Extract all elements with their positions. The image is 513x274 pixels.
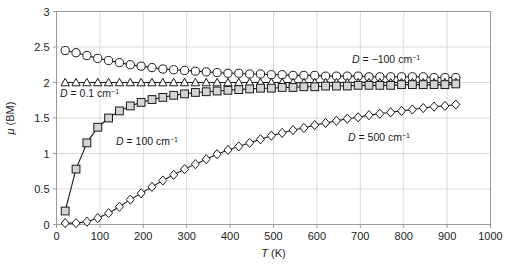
y-tick-label: 1.5 [34, 112, 49, 124]
data-marker-diamond [278, 128, 286, 137]
data-marker-diamond [61, 218, 69, 227]
data-marker-diamond [148, 182, 156, 191]
data-marker-diamond [322, 118, 330, 127]
data-marker-square [365, 81, 373, 89]
data-marker-diamond [441, 101, 449, 110]
data-marker-diamond [387, 108, 395, 117]
data-marker-square [126, 102, 134, 110]
data-marker-square [441, 81, 449, 89]
grid-lines [57, 12, 491, 225]
data-marker-diamond [256, 135, 264, 144]
data-marker-square [213, 87, 221, 95]
x-tick-label: 100 [91, 230, 109, 242]
data-marker-diamond [72, 218, 80, 227]
data-marker-square [300, 83, 308, 91]
data-marker-diamond [289, 125, 297, 134]
x-tick-label: 400 [221, 230, 239, 242]
data-marker-square [83, 139, 91, 147]
y-tick-label: 0 [43, 219, 49, 231]
chart-figure: 0100200300400500600700800900100000.511.5… [0, 0, 513, 274]
annotation-d-500: D = 500 cm−1 [348, 131, 410, 143]
series-line [65, 84, 456, 211]
data-marker-diamond [408, 105, 416, 114]
data-marker-diamond [191, 160, 199, 169]
y-tick-label: 2.5 [34, 41, 49, 53]
data-marker-diamond [137, 189, 145, 198]
data-marker-diamond [170, 170, 178, 179]
x-tick-label: 300 [178, 230, 196, 242]
chart-svg: 0100200300400500600700800900100000.511.5… [0, 0, 513, 274]
data-marker-circle [104, 56, 112, 64]
data-marker-square [322, 82, 330, 90]
x-tick-label: 200 [134, 230, 152, 242]
y-tick-label: 3 [43, 6, 49, 18]
x-tick-label: 800 [395, 230, 413, 242]
data-marker-circle [61, 46, 69, 54]
data-marker-square [159, 94, 167, 102]
data-marker-square [257, 84, 265, 92]
annotation-d-0p1: D = 0.1 cm−1 [60, 87, 119, 99]
data-marker-square [343, 82, 351, 90]
data-marker-circle [256, 70, 264, 78]
y-tick-label: 2 [43, 77, 49, 89]
data-marker-diamond [115, 202, 123, 211]
data-marker-square [333, 82, 341, 90]
data-marker-square [137, 98, 145, 106]
series-3 [61, 80, 459, 215]
data-marker-circle [224, 69, 232, 77]
data-marker-square [408, 81, 416, 89]
data-marker-diamond [267, 131, 275, 140]
data-marker-circle [191, 67, 199, 75]
data-marker-circle [202, 68, 210, 76]
data-marker-diamond [105, 209, 113, 218]
annotation-d-100: D = 100 cm−1 [116, 135, 178, 147]
x-tick-label: 700 [351, 230, 369, 242]
data-marker-square [419, 81, 427, 89]
data-marker-circle [72, 49, 80, 57]
data-marker-square [94, 123, 102, 131]
data-marker-square [181, 90, 189, 98]
data-marker-circle [159, 65, 167, 73]
data-marker-diamond [452, 100, 460, 109]
data-marker-diamond [235, 142, 243, 151]
data-marker-square [376, 81, 384, 89]
data-marker-circle [126, 61, 134, 69]
x-tick-label: 1000 [478, 230, 502, 242]
axis-tick-labels: 0100200300400500600700800900100000.511.5… [34, 6, 503, 242]
data-marker-diamond [126, 195, 134, 204]
data-marker-circle [94, 54, 102, 62]
annotation-d-minus-100: D = −100 cm−1 [352, 53, 420, 65]
data-marker-square [246, 85, 254, 93]
data-marker-diamond [398, 106, 406, 115]
data-marker-square [116, 107, 124, 115]
series-line [65, 105, 456, 224]
data-marker-diamond [430, 102, 438, 111]
data-marker-square [170, 91, 178, 99]
data-marker-diamond [311, 121, 319, 130]
axis-ticks [53, 12, 491, 229]
data-marker-square [224, 86, 232, 94]
data-marker-square [311, 83, 319, 91]
data-marker-diamond [376, 109, 384, 118]
data-marker-square [267, 84, 275, 92]
data-marker-square [289, 84, 297, 92]
data-marker-diamond [246, 138, 254, 147]
data-marker-square [61, 207, 69, 215]
data-marker-circle [115, 59, 123, 67]
data-marker-square [278, 84, 286, 92]
data-marker-diamond [202, 155, 210, 164]
data-marker-square [105, 114, 113, 122]
x-axis-title: T (K) [261, 247, 285, 259]
data-marker-square [148, 96, 156, 104]
x-tick-label: 600 [308, 230, 326, 242]
data-marker-diamond [159, 176, 167, 185]
data-marker-square [387, 81, 395, 89]
y-axis-title: μ (BM) [4, 102, 16, 136]
data-marker-circle [246, 70, 254, 78]
data-marker-circle [213, 68, 221, 76]
x-tick-label: 0 [53, 230, 59, 242]
series-4 [61, 100, 460, 228]
data-marker-circle [83, 51, 91, 59]
data-marker-square [72, 165, 80, 173]
data-marker-square [354, 81, 362, 89]
